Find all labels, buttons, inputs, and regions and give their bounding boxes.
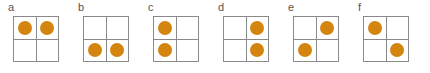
orange-dot-icon xyxy=(158,21,172,35)
c-cell-bottom-left xyxy=(154,40,176,62)
orange-dot-icon xyxy=(250,43,264,57)
orange-dot-icon xyxy=(320,21,334,35)
grid-d xyxy=(223,16,269,62)
grid-c xyxy=(153,16,199,62)
b-cell-bottom-left xyxy=(84,40,106,62)
panel-a: a xyxy=(0,0,70,73)
orange-dot-icon xyxy=(390,43,404,57)
panel-e: e xyxy=(280,0,350,73)
a-cell-top-right xyxy=(37,17,59,39)
panel-label-e: e xyxy=(288,1,294,14)
panel-label-a: a xyxy=(8,1,14,14)
e-cell-top-right xyxy=(317,17,339,39)
panel-label-f: f xyxy=(358,1,361,14)
f-cell-top-right xyxy=(387,17,409,39)
e-cell-bottom-left xyxy=(294,40,316,62)
a-cell-bottom-right xyxy=(37,40,59,62)
orange-dot-icon xyxy=(368,21,382,35)
a-cell-bottom-left xyxy=(14,40,36,62)
orange-dot-icon xyxy=(110,43,124,57)
d-cell-top-right xyxy=(247,17,269,39)
orange-dot-icon xyxy=(298,43,312,57)
grid-a xyxy=(13,16,59,62)
orange-dot-icon xyxy=(88,43,102,57)
e-cell-top-left xyxy=(294,17,316,39)
orange-dot-icon xyxy=(18,21,32,35)
b-cell-bottom-right xyxy=(107,40,129,62)
grid-e xyxy=(293,16,339,62)
panel-b: b xyxy=(70,0,140,73)
orange-dot-icon xyxy=(158,43,172,57)
c-cell-top-left xyxy=(154,17,176,39)
two-by-two-dot-configurations-figure: abcdef xyxy=(0,0,430,73)
d-cell-top-left xyxy=(224,17,246,39)
panel-d: d xyxy=(210,0,280,73)
panel-label-c: c xyxy=(148,1,154,14)
d-cell-bottom-left xyxy=(224,40,246,62)
panel-label-d: d xyxy=(218,1,224,14)
e-cell-bottom-right xyxy=(317,40,339,62)
panel-label-b: b xyxy=(78,1,84,14)
c-cell-top-right xyxy=(177,17,199,39)
f-cell-bottom-right xyxy=(387,40,409,62)
panel-f: f xyxy=(350,0,420,73)
f-cell-top-left xyxy=(364,17,386,39)
b-cell-top-right xyxy=(107,17,129,39)
panel-c: c xyxy=(140,0,210,73)
grid-b xyxy=(83,16,129,62)
b-cell-top-left xyxy=(84,17,106,39)
a-cell-top-left xyxy=(14,17,36,39)
grid-f xyxy=(363,16,409,62)
f-cell-bottom-left xyxy=(364,40,386,62)
orange-dot-icon xyxy=(40,21,54,35)
d-cell-bottom-right xyxy=(247,40,269,62)
c-cell-bottom-right xyxy=(177,40,199,62)
orange-dot-icon xyxy=(250,21,264,35)
